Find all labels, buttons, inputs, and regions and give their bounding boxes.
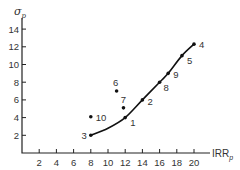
point-marker	[89, 134, 93, 138]
point-marker	[89, 115, 93, 119]
point-marker	[141, 98, 145, 102]
x-tick-label: 20	[189, 157, 200, 168]
x-tick-label: 14	[137, 157, 148, 168]
x-tick-label: 16	[154, 157, 165, 168]
point-label: 1	[130, 117, 135, 128]
y-tick-label: 14	[8, 24, 19, 35]
x-tick-label: 8	[88, 157, 93, 168]
point-marker	[123, 116, 127, 120]
y-tick-label: 4	[14, 112, 19, 123]
y-tick-label: 8	[14, 77, 19, 88]
data-point-5: 5	[180, 54, 192, 66]
data-point-8: 8	[158, 80, 169, 93]
point-label: 4	[199, 39, 204, 50]
point-label: 7	[121, 94, 126, 105]
point-marker	[180, 54, 184, 58]
data-point-9: 9	[166, 69, 178, 80]
x-tick-label: 2	[37, 157, 42, 168]
point-label: 8	[164, 82, 169, 93]
data-point-7: 7	[121, 94, 126, 110]
data-point-6: 6	[113, 77, 118, 93]
point-label: 6	[113, 77, 118, 88]
data-point-1: 1	[123, 116, 135, 128]
y-tick-label: 2	[14, 130, 19, 141]
y-tick-label: 6	[14, 94, 19, 105]
scatter-chart: 2468101214 2468101214161820 σp IRRp 1234…	[0, 0, 240, 170]
point-label: 2	[147, 96, 152, 107]
data-points: 12345678910	[82, 39, 205, 141]
point-marker	[122, 106, 126, 110]
x-tick-label: 12	[120, 157, 131, 168]
x-tick-label: 4	[54, 157, 59, 168]
x-tick-label: 6	[71, 157, 76, 168]
point-marker	[192, 42, 196, 46]
data-point-2: 2	[141, 96, 153, 107]
point-marker	[158, 80, 162, 84]
data-point-10: 10	[89, 112, 106, 123]
point-marker	[115, 89, 119, 93]
y-axis-title: σp	[14, 5, 27, 20]
x-tick-label: 18	[172, 157, 183, 168]
x-axis-ticks: 2468101214161820	[37, 149, 200, 168]
point-label: 10	[96, 112, 107, 123]
data-point-3: 3	[82, 130, 93, 141]
x-tick-label: 10	[103, 157, 114, 168]
x-axis-title: IRRp	[212, 148, 233, 162]
y-tick-label: 12	[8, 41, 19, 52]
point-label: 5	[187, 55, 192, 66]
point-label: 9	[173, 69, 178, 80]
y-axis-ticks: 2468101214	[8, 24, 26, 141]
point-label: 3	[82, 130, 87, 141]
data-point-4: 4	[192, 39, 204, 50]
y-tick-label: 10	[8, 59, 19, 70]
point-marker	[166, 72, 170, 76]
